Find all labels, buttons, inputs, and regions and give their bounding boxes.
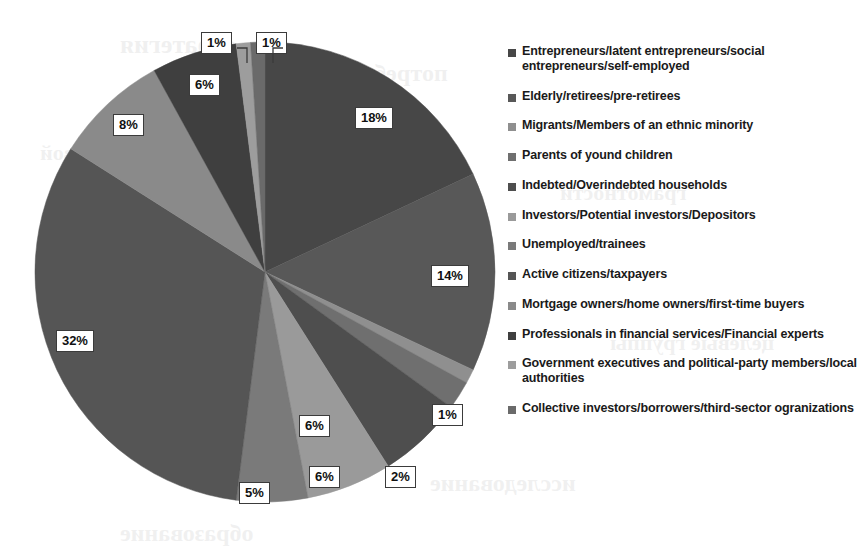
legend-swatch-icon [508,332,516,340]
data-label-1-topright: 1% [256,32,287,54]
data-label-32: 32% [56,330,94,352]
pie-plot-area [0,0,500,555]
legend-swatch-icon [508,242,516,250]
legend-swatch-icon [508,94,516,102]
legend-swatch-icon [508,123,516,131]
legend-item[interactable]: Migrants/Members of an ethnic minority [508,118,860,133]
pie-svg [0,0,500,555]
legend-item-label: Entrepreneurs/latent entrepreneurs/socia… [522,44,860,74]
legend-item[interactable]: Mortgage owners/home owners/first-time b… [508,297,860,312]
legend-item[interactable]: Government executives and political-part… [508,356,860,386]
data-label-1-right: 1% [432,404,463,426]
legend-swatch-icon [508,153,516,161]
legend-item-label: Investors/Potential investors/Depositors [522,208,756,223]
legend-item-label: Government executives and political-part… [522,356,860,386]
legend-swatch-icon [508,213,516,221]
legend-swatch-icon [508,272,516,280]
legend-swatch-icon [508,406,516,414]
legend-item[interactable]: Collective investors/borrowers/third-sec… [508,401,860,416]
data-label-1-topleft: 1% [201,32,232,54]
legend-item[interactable]: Investors/Potential investors/Depositors [508,208,860,223]
legend-item[interactable]: Entrepreneurs/latent entrepreneurs/socia… [508,44,860,74]
data-label-5: 5% [239,482,270,504]
data-label-8: 8% [113,114,144,136]
data-label-14: 14% [431,265,469,287]
legend-swatch-icon [508,302,516,310]
legend-item-label: Collective investors/borrowers/third-sec… [522,401,854,416]
data-label-6-bottom: 6% [309,466,340,488]
data-label-6-lowerright: 6% [299,415,330,437]
pie-chart: 18%14%1%2%6%6%5%32%8%6%1%1% Entrepreneur… [0,0,866,555]
legend-item-label: Parents of yound children [522,148,672,163]
legend-item[interactable]: Professionals in financial services/Fina… [508,327,860,342]
legend-item[interactable]: Elderly/retirees/pre-retirees [508,89,860,104]
legend-item-label: Mortgage owners/home owners/first-time b… [522,297,804,312]
legend-item-label: Active citizens/taxpayers [522,267,667,282]
legend-item[interactable]: Unemployed/trainees [508,237,860,252]
legend-item[interactable]: Parents of yound children [508,148,860,163]
data-label-18: 18% [355,107,393,129]
legend-item[interactable]: Indebted/Overindebted households [508,178,860,193]
legend-item-label: Professionals in financial services/Fina… [522,327,824,342]
data-label-2: 2% [385,466,416,488]
legend: Entrepreneurs/latent entrepreneurs/socia… [508,44,860,431]
legend-swatch-icon [508,49,516,57]
legend-swatch-icon [508,361,516,369]
legend-item-label: Elderly/retirees/pre-retirees [522,89,680,104]
legend-item-label: Indebted/Overindebted households [522,178,727,193]
legend-item-label: Unemployed/trainees [522,237,646,252]
legend-item-label: Migrants/Members of an ethnic minority [522,118,753,133]
legend-item[interactable]: Active citizens/taxpayers [508,267,860,282]
data-label-6-topleft: 6% [189,74,220,96]
legend-swatch-icon [508,183,516,191]
